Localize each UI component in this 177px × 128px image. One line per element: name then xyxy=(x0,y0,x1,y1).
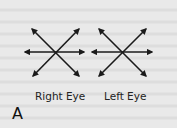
left-eye-label: Left Eye xyxy=(104,90,146,102)
left-eye-arrows xyxy=(92,29,152,76)
right-eye-arrows xyxy=(25,29,84,76)
panel-label: A xyxy=(12,104,23,123)
eye-movement-diagram xyxy=(0,0,177,128)
right-eye-label: Right Eye xyxy=(35,90,85,102)
